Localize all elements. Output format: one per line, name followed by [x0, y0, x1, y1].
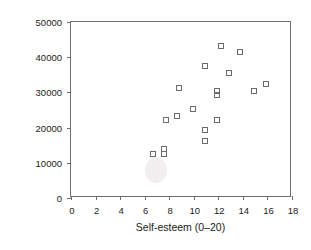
y-axis-tick: 10000 — [67, 163, 71, 164]
scatter-plot-figure: 0100002000030000400005000002468101214161… — [0, 0, 311, 250]
x-axis-tick-label: 16 — [263, 206, 274, 216]
x-axis-tick-label: 0 — [69, 206, 74, 216]
x-axis-tick-label: 10 — [189, 206, 200, 216]
x-axis-tick: 4 — [120, 196, 121, 200]
x-axis-tick: 14 — [243, 196, 244, 200]
y-axis-tick: 40000 — [67, 57, 71, 58]
data-point — [161, 151, 167, 157]
data-point — [218, 43, 224, 49]
y-axis-tick-label: 30000 — [36, 89, 62, 99]
y-axis-tick-label: 20000 — [36, 124, 62, 134]
x-axis-tick-label: 12 — [214, 206, 225, 216]
y-axis-tick-label: 50000 — [36, 18, 62, 28]
x-axis-tick: 0 — [71, 196, 72, 200]
x-axis-tick: 8 — [169, 196, 170, 200]
data-point — [202, 63, 208, 69]
x-axis-tick: 6 — [145, 196, 146, 200]
x-axis-tick: 10 — [194, 196, 195, 200]
y-axis-tick: 20000 — [67, 128, 71, 129]
data-point — [150, 151, 156, 157]
x-axis-tick-label: 4 — [118, 206, 123, 216]
data-point — [176, 85, 182, 91]
data-point — [163, 117, 169, 123]
plot-area: 0100002000030000400005000002468101214161… — [70, 21, 291, 197]
y-axis-tick: 30000 — [67, 92, 71, 93]
x-axis-tick-label: 18 — [288, 206, 299, 216]
y-axis-tick-label: 10000 — [36, 159, 62, 169]
y-axis-tick-label: 0 — [57, 194, 62, 204]
data-point — [174, 113, 180, 119]
data-point — [226, 70, 232, 76]
x-axis-tick-label: 6 — [143, 206, 148, 216]
data-point — [214, 92, 220, 98]
data-point — [251, 88, 257, 94]
data-point — [190, 106, 196, 112]
x-axis-label: Self-esteem (0–20) — [70, 222, 291, 234]
x-axis-tick: 18 — [292, 196, 293, 200]
y-axis-tick-label: 40000 — [36, 53, 62, 63]
x-axis-tick-label: 2 — [94, 206, 99, 216]
data-point — [237, 49, 243, 55]
x-axis-tick-label: 8 — [168, 206, 173, 216]
x-axis-tick: 16 — [267, 196, 268, 200]
x-axis-tick: 12 — [218, 196, 219, 200]
y-axis-tick: 50000 — [67, 22, 71, 23]
data-point — [202, 127, 208, 133]
data-point — [202, 138, 208, 144]
x-axis-tick: 2 — [96, 196, 97, 200]
data-point — [263, 81, 269, 87]
scan-artifact — [145, 157, 167, 183]
x-axis-tick-label: 14 — [239, 206, 250, 216]
data-point — [214, 117, 220, 123]
